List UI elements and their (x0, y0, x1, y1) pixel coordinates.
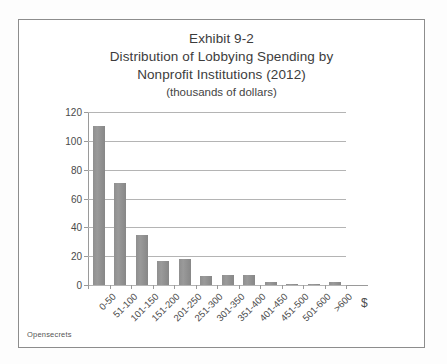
bar (265, 282, 277, 285)
x-tick-mark (239, 285, 240, 289)
x-tick-mark (131, 285, 132, 289)
gridline (88, 227, 346, 228)
gridline (88, 170, 346, 171)
y-tick-label: 0 (76, 280, 82, 291)
chart-title-line-1: Exhibit 9-2 (18, 30, 425, 48)
y-tick-label: 100 (65, 135, 82, 146)
chart-title-line-3: Nonprofit Institutions (2012) (18, 66, 425, 84)
bar (200, 276, 212, 285)
x-tick-mark (196, 285, 197, 289)
bar (329, 282, 341, 285)
bar (286, 284, 298, 285)
x-tick-mark (217, 285, 218, 289)
y-tick-mark (84, 199, 88, 200)
x-tick-mark (325, 285, 326, 289)
y-tick-label: 20 (71, 251, 82, 262)
x-tick-mark (282, 285, 283, 289)
y-tick-mark (84, 141, 88, 142)
y-tick-label: 120 (65, 107, 82, 118)
y-tick-label: 60 (71, 193, 82, 204)
x-tick-mark (303, 285, 304, 289)
bar (243, 275, 255, 285)
y-tick-label: 40 (71, 222, 82, 233)
x-tick-mark (153, 285, 154, 289)
x-axis-title: $ (361, 296, 368, 310)
y-tick-label: 80 (71, 164, 82, 175)
figure-canvas: Exhibit 9-2 Distribution of Lobbying Spe… (0, 0, 447, 364)
x-tick-mark (110, 285, 111, 289)
bar (114, 183, 126, 285)
gridline (88, 256, 346, 257)
bar (136, 235, 148, 285)
chart-subtitle: (thousands of dollars) (18, 84, 425, 101)
gridline (88, 141, 346, 142)
chart-title-line-2: Distribution of Lobbying Spending by (18, 48, 425, 66)
chart-title-block: Exhibit 9-2 Distribution of Lobbying Spe… (18, 30, 425, 101)
x-tick-mark (174, 285, 175, 289)
plot-area: 020406080100120 (88, 112, 346, 285)
y-tick-mark (84, 112, 88, 113)
gridline (88, 112, 346, 113)
bar (179, 259, 191, 285)
y-tick-mark (84, 227, 88, 228)
x-tick-mark (260, 285, 261, 289)
bar (308, 284, 320, 285)
bar (222, 275, 234, 285)
y-tick-mark (84, 170, 88, 171)
gridline (88, 199, 346, 200)
x-tick-mark (88, 285, 89, 289)
source-note: Opensecrets (27, 330, 72, 339)
y-tick-mark (84, 256, 88, 257)
bar (93, 126, 105, 285)
x-tick-mark (346, 285, 347, 289)
bar (157, 261, 169, 286)
